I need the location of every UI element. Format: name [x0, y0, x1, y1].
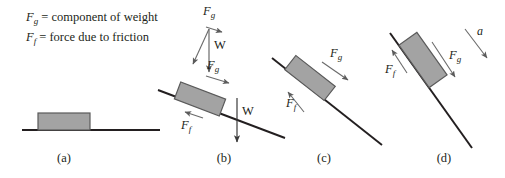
block-a	[38, 113, 90, 130]
label-fg-slope-b-sub: g	[215, 64, 220, 74]
vector-acceleration-d	[465, 29, 487, 58]
panel-d	[390, 29, 487, 148]
label-ff-slope-c-sub: f	[294, 102, 297, 112]
label-acceleration-d-text: a	[477, 24, 483, 38]
panel-a	[22, 113, 160, 130]
label-ff-slope-c-symbol: F	[286, 96, 294, 110]
block-c-group	[285, 56, 335, 101]
label-fg-apex-b-sub: g	[211, 10, 216, 20]
label-w-weight-b: W	[242, 104, 254, 119]
label-ff-slope-d-sub: f	[393, 68, 396, 78]
physics-incline-figure: Fg = component of weight Ff = force due …	[0, 0, 505, 178]
panel-caption-d: (d)	[424, 151, 464, 166]
block-d	[399, 32, 447, 87]
vector-fg-slope-c	[322, 62, 348, 80]
label-fg-apex-b-symbol: F	[203, 4, 211, 18]
label-fg-slope-c: Fg	[330, 46, 342, 62]
block-b	[174, 82, 225, 116]
label-ff-slope-b: Ff	[181, 118, 191, 134]
vector-fg-slope-b	[206, 76, 229, 83]
label-w-weight-b-text: W	[242, 104, 254, 118]
label-ff-slope-d-symbol: F	[385, 62, 393, 76]
block-d-group	[399, 32, 447, 87]
label-ff-slope-c: Ff	[286, 96, 296, 112]
label-ff-slope-b-sub: f	[189, 124, 192, 134]
label-ff-slope-b-symbol: F	[181, 118, 189, 132]
block-c	[285, 56, 335, 101]
label-fg-apex-b: Fg	[203, 4, 215, 20]
label-w-resolution-b-text: W	[214, 38, 226, 52]
label-fg-slope-d-symbol: F	[449, 48, 457, 62]
label-fg-slope-b: Fg	[207, 58, 219, 74]
label-acceleration-d: a	[477, 24, 483, 39]
panel-caption-a: (a)	[44, 151, 84, 166]
label-fg-slope-c-symbol: F	[330, 46, 338, 60]
label-fg-slope-d: Fg	[449, 48, 461, 64]
label-ff-slope-d: Ff	[385, 62, 395, 78]
panel-caption-b: (b)	[204, 151, 244, 166]
label-fg-slope-b-symbol: F	[207, 58, 215, 72]
block-b-group	[174, 82, 225, 116]
label-w-resolution-b: W	[214, 38, 226, 53]
panel-caption-c: (c)	[304, 151, 344, 166]
label-fg-slope-d-sub: g	[457, 54, 462, 64]
label-fg-slope-c-sub: g	[338, 52, 343, 62]
